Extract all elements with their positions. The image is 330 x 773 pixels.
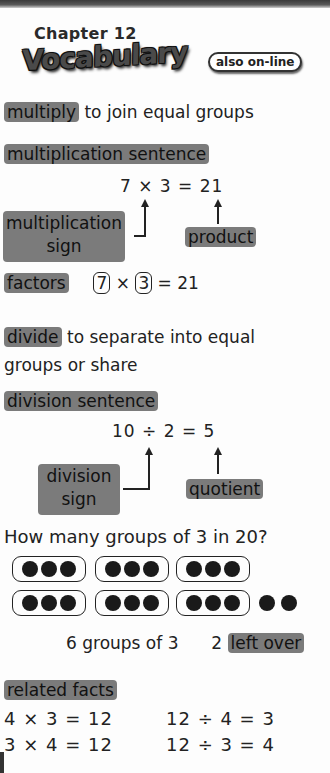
term-related-facts: related facts: [4, 680, 117, 700]
term-division-sentence: division sentence: [4, 391, 158, 411]
term-division-sign: division sign: [38, 464, 120, 515]
arrow-line: [134, 235, 146, 237]
dot: [60, 561, 76, 577]
term-multiply: multiply: [4, 102, 79, 122]
dot: [124, 595, 140, 611]
leftover-count: 2: [211, 633, 222, 653]
divide-definition-line2: groups or share: [4, 351, 255, 379]
divide-definition-line1: to separate into equal: [67, 327, 255, 347]
sign-label-line2: sign: [3, 235, 125, 258]
dot: [224, 561, 240, 577]
dot: [60, 595, 76, 611]
dot-group: [95, 590, 169, 616]
factors-result: = 21: [158, 273, 199, 293]
arrow-line: [123, 488, 150, 490]
dot: [186, 595, 202, 611]
sign-label-line1: division: [38, 465, 120, 488]
dot: [105, 595, 121, 611]
leftover-dot: [259, 595, 275, 611]
arrow-line: [217, 454, 219, 474]
dot-group: [12, 556, 86, 582]
arrow-line: [217, 206, 219, 224]
divide-definition: divide to separate into equal groups or …: [4, 323, 255, 379]
term-left-over: left over: [228, 633, 305, 653]
dot: [205, 595, 221, 611]
term-multiplication-sign: multiplication sign: [3, 211, 125, 262]
term-divide: divide: [4, 327, 62, 347]
factors-row: factors 7 × 3 = 21: [4, 272, 199, 294]
dot: [22, 561, 38, 577]
grouping-question: How many groups of 3 in 20?: [4, 526, 268, 547]
dot: [105, 561, 121, 577]
dot-group: [176, 590, 250, 616]
multiplication-sentence-term: multiplication sentence: [4, 144, 209, 164]
dot: [124, 561, 140, 577]
dot-group: [12, 590, 86, 616]
dot: [186, 561, 202, 577]
factor-box: 3: [135, 272, 152, 294]
dot: [224, 595, 240, 611]
dot-group: [95, 556, 169, 582]
term-multiplication-sentence: multiplication sentence: [4, 144, 209, 164]
related-fact: 3 × 4 = 12: [4, 734, 113, 755]
term-quotient: quotient: [186, 479, 263, 499]
also-online-badge[interactable]: also on-line: [208, 52, 302, 72]
dot-group: [176, 556, 250, 582]
related-fact: 4 × 3 = 12: [4, 708, 113, 729]
related-facts-term: related facts: [4, 680, 117, 700]
related-fact: 12 ÷ 3 = 4: [166, 734, 275, 755]
arrow-line: [148, 454, 150, 490]
grouping-summary: 6 groups of 3 2 left over: [66, 633, 304, 653]
arrow-line: [144, 206, 146, 237]
dot: [22, 595, 38, 611]
term-product: product: [185, 227, 256, 247]
times-sign: ×: [116, 273, 130, 293]
division-sentence-term: division sentence: [4, 391, 158, 411]
division-equation: 10 ÷ 2 = 5: [112, 421, 215, 441]
sign-label-line1: multiplication: [3, 212, 125, 235]
related-fact: 12 ÷ 4 = 3: [166, 708, 275, 729]
leftover-dot: [281, 595, 297, 611]
page-top-border: [0, 0, 330, 8]
groups-summary: 6 groups of 3: [66, 633, 178, 653]
dot: [41, 595, 57, 611]
dot: [205, 561, 221, 577]
sign-label-line2: sign: [38, 488, 120, 511]
page-edge: [0, 752, 4, 773]
factor-box: 7: [93, 272, 110, 294]
dot: [143, 595, 159, 611]
multiplication-equation: 7 × 3 = 21: [120, 176, 223, 196]
dot: [143, 561, 159, 577]
multiply-definition: multiply to join equal groups: [4, 102, 254, 122]
term-factors: factors: [4, 273, 69, 293]
multiply-definition-text: to join equal groups: [84, 102, 253, 122]
dot: [41, 561, 57, 577]
